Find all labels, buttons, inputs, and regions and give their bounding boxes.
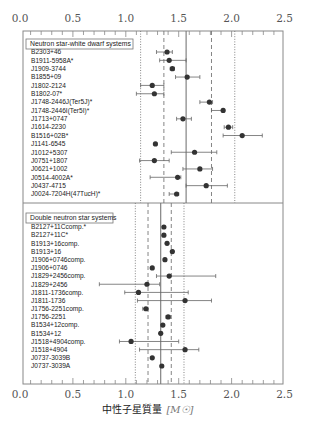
- top-tick-label: 1.5: [170, 12, 187, 24]
- bottom-tick-label: 2.5: [276, 388, 293, 400]
- system-name-label: B1534+12: [31, 330, 62, 337]
- legend-label: Neutron star-white dwarf systems: [30, 40, 131, 48]
- system-name-label: J0737-3039A: [31, 362, 71, 369]
- system-labels: B2303+46B1911-5958A*J1909-3744B1855+09J1…: [31, 48, 101, 369]
- system-name-label: J1614-2230: [31, 123, 66, 130]
- mass-marker: [150, 265, 155, 270]
- mass-marker: [161, 224, 166, 229]
- mass-marker: [221, 108, 226, 113]
- mass-marker: [152, 91, 157, 96]
- system-name-label: J1756-2251: [31, 313, 66, 320]
- mass-marker: [128, 339, 133, 344]
- system-name-label: B2127+11C*: [31, 231, 69, 238]
- mass-marker: [182, 347, 187, 352]
- system-name-label: J0737-3039B: [31, 354, 71, 361]
- system-name-label: J1829+2456: [31, 281, 68, 288]
- system-name-label: J1012+5307: [31, 149, 68, 156]
- data-points: [99, 49, 262, 368]
- bottom-tick-label: 1.5: [170, 388, 187, 400]
- system-name-label: J1713+0747: [31, 115, 68, 122]
- mass-marker: [167, 273, 172, 278]
- system-name-label: J1748-2446I(Ter5I)*: [31, 107, 90, 115]
- system-name-label: J1906+0746: [31, 264, 68, 271]
- system-name-label: J0437-4715: [31, 182, 66, 189]
- mass-marker: [240, 133, 245, 138]
- mass-marker: [170, 249, 175, 254]
- mass-marker: [192, 150, 197, 155]
- system-name-label: J1756-2251comp.: [31, 305, 84, 313]
- mass-marker: [226, 125, 231, 130]
- mass-marker: [160, 323, 165, 328]
- system-name-label: B1534+12comp.: [31, 321, 79, 329]
- system-name-label: J0751+1807: [31, 157, 68, 164]
- system-name-label: B1802-07*: [31, 90, 63, 97]
- top-tick-label: 0.5: [65, 12, 82, 24]
- mass-marker: [185, 74, 190, 79]
- neutron-star-mass-chart: B2303+46B1911-5958A*J1909-3744B1855+09J1…: [0, 0, 311, 431]
- mass-marker: [182, 298, 187, 303]
- legend-label: Double neutron star systems: [30, 214, 117, 222]
- mass-marker: [167, 58, 172, 63]
- mass-marker: [161, 233, 166, 238]
- mass-marker: [152, 158, 157, 163]
- top-tick-label: 1.0: [117, 12, 134, 24]
- top-tick-label: 2.0: [223, 12, 240, 24]
- mass-marker: [180, 116, 185, 121]
- system-name-label: B1855+09: [31, 73, 62, 80]
- mass-marker: [143, 306, 148, 311]
- mass-marker: [207, 100, 212, 105]
- system-name-label: J1802-2124: [31, 82, 66, 89]
- bottom-tick-label: 0.5: [65, 388, 82, 400]
- bottom-tick-label: 2.0: [223, 388, 240, 400]
- mass-marker: [197, 166, 202, 171]
- mass-marker: [164, 49, 169, 54]
- system-name-label: J0514-4002A*: [31, 174, 73, 181]
- system-name-label: B1913+16comp.: [31, 240, 79, 248]
- system-name-label: B1516+02B*: [31, 132, 69, 139]
- mass-marker: [204, 183, 209, 188]
- mass-marker: [159, 363, 164, 368]
- top-tick-label: 2.5: [276, 12, 293, 24]
- system-name-label: J1829+2456comp.: [31, 272, 86, 280]
- mass-marker: [175, 175, 180, 180]
- system-name-label: J0621+1002: [31, 165, 68, 172]
- system-name-label: J1518+4904comp.: [31, 338, 86, 346]
- system-name-label: J1518+4904: [31, 346, 68, 353]
- bottom-tick-label: 0.0: [12, 388, 29, 400]
- system-name-label: J0024-7204H(47TucH)*: [31, 190, 101, 198]
- mass-marker: [153, 141, 158, 146]
- top-tick-label: 0.0: [12, 12, 29, 24]
- mass-marker: [136, 290, 141, 295]
- system-name-label: J1906+0746comp.: [31, 256, 86, 264]
- mass-marker: [144, 282, 149, 287]
- mass-marker: [174, 191, 179, 196]
- x-axis-label: 中性子星質量[M☉]: [102, 403, 193, 415]
- system-name-label: J1811-1736: [31, 297, 66, 304]
- mass-marker: [158, 331, 163, 336]
- system-name-label: J1141-6545: [31, 140, 66, 147]
- mass-marker: [150, 83, 155, 88]
- mass-marker: [164, 241, 169, 246]
- mass-marker: [166, 314, 171, 319]
- system-name-label: B1913+16: [31, 248, 62, 255]
- mass-marker: [170, 66, 175, 71]
- mass-marker: [150, 355, 155, 360]
- system-name-label: J1811-1736comp.: [31, 289, 83, 297]
- bottom-tick-label: 1.0: [117, 388, 134, 400]
- system-name-label: B1911-5958A*: [31, 57, 74, 64]
- system-name-label: J1748-2446J(Ter5J)*: [31, 98, 93, 106]
- mass-marker: [162, 257, 167, 262]
- system-name-label: B2127+11Ccomp.*: [31, 223, 86, 231]
- system-name-label: J1909-3744: [31, 65, 66, 72]
